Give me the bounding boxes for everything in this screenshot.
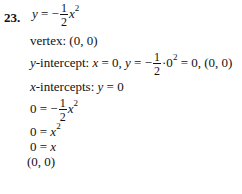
step-1: 0 = −12x2 <box>30 97 78 123</box>
step-4: (0, 0) <box>27 155 55 168</box>
step-3: 0 = x <box>30 140 56 153</box>
y-intercept-line: y-intercept: x = 0, y = −12·02 = 0, (0, … <box>30 51 232 77</box>
fraction: 12 <box>153 51 161 77</box>
vertex-line: vertex: (0, 0) <box>30 34 98 47</box>
fraction: 12 <box>60 2 68 28</box>
x-intercepts-line: x-intercepts: y = 0 <box>30 80 124 93</box>
equation: y = −12x2 <box>32 2 79 28</box>
step-2: 0 = x2 <box>30 125 61 138</box>
fraction: 12 <box>59 97 67 123</box>
problem-number: 23. <box>4 11 20 24</box>
